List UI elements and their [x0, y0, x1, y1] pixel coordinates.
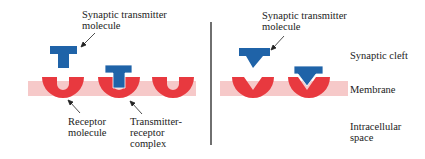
- arrow-transmitter-left: [83, 33, 95, 45]
- label-synaptic-cleft: Synaptic cleft: [350, 50, 408, 61]
- label-transmitter-right: Synaptic transmitter molecule: [262, 10, 347, 32]
- label-intracellular-space: Intracellular space: [350, 121, 401, 143]
- transmitter-molecule-free-right: [239, 48, 270, 68]
- label-transmitter-receptor-complex: Transmitter- receptor complex: [130, 116, 182, 149]
- transmitter-molecule-free: [50, 46, 77, 68]
- label-receptor-molecule: Receptor molecule: [68, 116, 106, 138]
- label-membrane: Membrane: [350, 84, 395, 95]
- label-transmitter-left: Synaptic transmitter molecule: [82, 9, 167, 31]
